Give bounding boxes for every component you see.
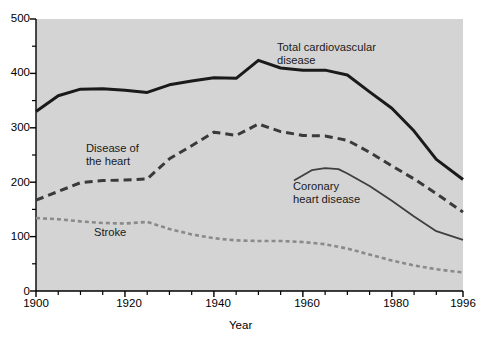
series-label-heart: Disease ofthe heart (86, 142, 139, 168)
series-label-stroke: Stroke (94, 226, 126, 239)
series-label-coronary-line2: heart disease (293, 193, 360, 205)
y-tick-label-400: 400 (0, 66, 30, 78)
x-tick-label-1960: 1960 (283, 297, 331, 309)
y-tick-label-100: 100 (0, 230, 30, 242)
y-axis-ticks (30, 19, 36, 291)
y-tick-label-200: 200 (0, 176, 30, 188)
series-label-heart-line2: the heart (86, 155, 130, 167)
x-tick-label-1996: 1996 (439, 297, 487, 309)
x-tick-label-1940: 1940 (194, 297, 242, 309)
series-label-heart-line1: Disease of (86, 142, 139, 154)
y-tick-label-500: 500 (0, 12, 30, 24)
series-label-coronary-line1: Coronary (293, 180, 339, 192)
x-tick-label-1980: 1980 (372, 297, 420, 309)
x-tick-label-1900: 1900 (12, 297, 60, 309)
y-tick-label-300: 300 (0, 121, 30, 133)
series-label-coronary: Coronaryheart disease (293, 180, 360, 206)
x-axis-title: Year (229, 319, 252, 331)
x-tick-label-1920: 1920 (105, 297, 153, 309)
series-label-total-cvd: Total cardiovasculardisease (277, 41, 376, 67)
y-tick-label-0: 0 (0, 285, 30, 297)
line-chart-canvas (0, 0, 487, 338)
chart-figure: 500 400 300 200 100 0 1900 1920 1940 196… (0, 0, 487, 338)
series-label-total-cvd-line1: Total cardiovascular (277, 41, 376, 53)
series-label-total-cvd-line2: disease (277, 54, 316, 66)
